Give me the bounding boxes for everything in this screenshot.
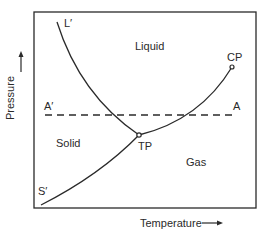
label-critical-point: CP: [227, 52, 242, 63]
x-axis-label: Temperature: [140, 218, 202, 229]
region-label-solid: Solid: [56, 138, 80, 149]
melting-curve: [57, 22, 139, 135]
label-l-prime: L′: [64, 18, 72, 29]
region-label-liquid: Liquid: [135, 41, 164, 52]
label-a-prime: A′: [44, 101, 53, 112]
label-triple-point: TP: [138, 141, 152, 152]
critical-point-marker: [230, 65, 234, 69]
vaporization-curve: [139, 67, 232, 135]
triple-point-marker: [137, 133, 141, 137]
y-axis-label: Pressure: [4, 76, 16, 120]
phase-diagram: [0, 0, 268, 238]
x-axis-arrow-icon: [217, 221, 223, 226]
region-label-gas: Gas: [186, 157, 206, 168]
label-a: A: [233, 101, 240, 112]
label-s-prime: S′: [38, 186, 47, 197]
y-axis-arrow-icon: [19, 51, 24, 57]
